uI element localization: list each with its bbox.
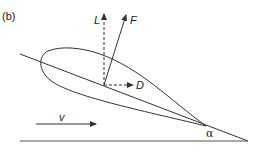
angle-of-attack-label: α — [206, 127, 214, 140]
resultant-force-label: F — [130, 14, 138, 26]
lift-label: L — [94, 14, 100, 26]
velocity-label: v — [59, 111, 66, 123]
resultant-force-arrow — [104, 15, 126, 85]
panel-label: (b) — [2, 10, 15, 22]
drag-label: D — [136, 79, 144, 91]
airfoil-outline — [41, 48, 206, 126]
airfoil-diagram: (b) L F D v α — [0, 0, 261, 151]
chord-line — [20, 54, 248, 141]
